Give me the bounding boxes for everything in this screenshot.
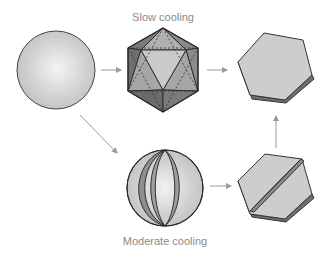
twinned-hexagon-node	[238, 154, 314, 222]
banded-sphere-node	[127, 150, 203, 226]
hexagon-plate-node	[238, 33, 314, 103]
icosahedron-node	[128, 28, 198, 112]
moderate-cooling-label: Moderate cooling	[123, 235, 207, 247]
arrow-sphere-to-banded-sphere	[80, 115, 117, 153]
sphere-node	[17, 31, 95, 109]
diagram-canvas	[0, 0, 330, 258]
slow-cooling-label: Slow cooling	[132, 11, 194, 23]
